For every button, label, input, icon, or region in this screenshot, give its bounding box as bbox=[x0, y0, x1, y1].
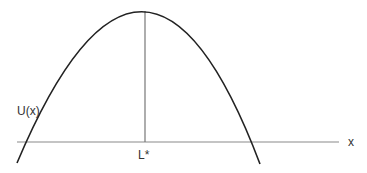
optimum-label: L* bbox=[138, 149, 149, 161]
x-axis-label: x bbox=[348, 136, 354, 148]
utility-curve bbox=[17, 12, 260, 164]
diagram-canvas bbox=[0, 0, 367, 173]
utility-diagram: U(x) x L* bbox=[0, 0, 367, 173]
curve-label: U(x) bbox=[17, 105, 40, 117]
